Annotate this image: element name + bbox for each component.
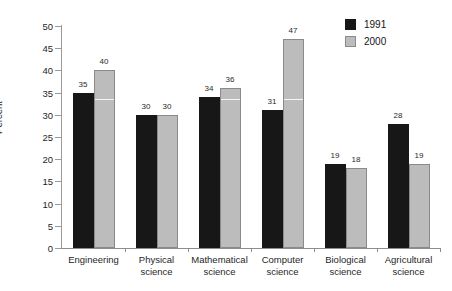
x-axis-tick — [377, 248, 378, 252]
bar-2000-2 — [157, 115, 178, 248]
bar-group: 3030 — [125, 26, 188, 248]
y-axis-tick-label: 5 — [5, 221, 53, 231]
bar-chart: Percent 05101520253035404550 35403030343… — [0, 0, 452, 291]
y-axis-tick-label: 30 — [5, 110, 53, 120]
legend-label: 1991 — [364, 19, 386, 30]
bar-group: 3147 — [251, 26, 314, 248]
x-axis-tick — [125, 248, 126, 252]
y-axis-tick — [55, 26, 61, 27]
y-axis-tick-label: 15 — [5, 177, 53, 187]
y-axis-tick — [55, 48, 61, 49]
bar-1991-6 — [388, 124, 409, 248]
legend-item-1991: 1991 — [345, 16, 445, 33]
y-axis-tick-label: 0 — [5, 244, 53, 254]
bar-value-label: 28 — [382, 112, 415, 120]
dark-square-swatch-icon — [345, 19, 356, 30]
bar-value-label: 47 — [277, 27, 310, 35]
bar-1991-5 — [325, 164, 346, 248]
y-axis-tick-label: 50 — [5, 22, 53, 32]
y-axis-tick — [55, 181, 61, 182]
y-axis-tick — [55, 248, 61, 249]
y-axis-tick-label: 25 — [5, 133, 53, 143]
y-axis-tick — [55, 204, 61, 205]
y-axis-tick-label: 40 — [5, 66, 53, 76]
bar-1991-4 — [262, 110, 283, 248]
bar-2000-3 — [220, 88, 241, 248]
bar-1991-1 — [73, 93, 94, 248]
bar-2000-5 — [346, 168, 367, 248]
bar-value-label: 30 — [151, 103, 184, 111]
y-axis-tick-label: 10 — [5, 199, 53, 209]
scan-artifact-line — [95, 99, 114, 100]
chart-legend: 1991 2000 — [345, 16, 445, 50]
scan-artifact-line — [284, 99, 303, 100]
scan-artifact-line — [221, 99, 240, 100]
legend-item-2000: 2000 — [345, 33, 445, 50]
bar-group: 1918 — [314, 26, 377, 248]
y-axis-title: Percent — [0, 101, 4, 134]
y-axis-tick — [55, 93, 61, 94]
x-axis-tick — [440, 248, 441, 252]
x-axis-tick — [251, 248, 252, 252]
bar-1991-2 — [136, 115, 157, 248]
y-axis-tick — [55, 226, 61, 227]
bar-value-label: 18 — [340, 156, 373, 164]
bar-value-label: 19 — [403, 152, 436, 160]
x-axis-tick — [188, 248, 189, 252]
legend-label: 2000 — [364, 36, 386, 47]
y-axis-tick-label: 35 — [5, 88, 53, 98]
bar-value-label: 36 — [214, 76, 247, 84]
y-axis-tick — [55, 159, 61, 160]
bar-2000-4 — [283, 39, 304, 248]
plot-area: 354030303436314719182819 — [62, 26, 440, 248]
y-axis-tick-label: 20 — [5, 155, 53, 165]
x-axis-tick — [314, 248, 315, 252]
bar-group: 2819 — [377, 26, 440, 248]
bar-2000-1 — [94, 70, 115, 248]
y-axis-tick — [55, 137, 61, 138]
x-axis-category-label: Agricultural science — [365, 254, 452, 277]
y-axis-tick — [55, 115, 61, 116]
light-square-swatch-icon — [345, 36, 356, 47]
y-axis-tick — [55, 70, 61, 71]
y-axis-tick-label: 45 — [5, 44, 53, 54]
bar-1991-3 — [199, 97, 220, 248]
bar-2000-6 — [409, 164, 430, 248]
bar-group: 3540 — [62, 26, 125, 248]
bar-group: 3436 — [188, 26, 251, 248]
bar-value-label: 40 — [88, 58, 121, 66]
